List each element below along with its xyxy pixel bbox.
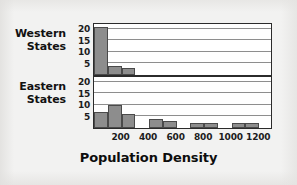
plot-area-eastern-states xyxy=(93,76,272,129)
histogram-figure: Western States 2015105 Eastern States 20… xyxy=(0,0,297,185)
x-axis-tick-label: 1200 xyxy=(246,132,270,142)
y-axis-ticks-eastern: 2015105 xyxy=(68,76,90,129)
histogram-bar xyxy=(122,68,136,75)
y-axis-tick-label: 20 xyxy=(78,25,90,34)
x-axis-label: Population Density xyxy=(0,150,297,165)
y-axis-tick-label: 10 xyxy=(78,101,90,110)
bars-eastern xyxy=(94,77,271,128)
x-axis-tick-label: 600 xyxy=(167,132,185,142)
x-axis-tick-label: 200 xyxy=(111,132,129,142)
histogram-bar xyxy=(108,105,122,128)
y-axis-tick-label: 15 xyxy=(78,90,90,99)
histogram-bar xyxy=(149,119,163,128)
histogram-bar xyxy=(163,121,177,128)
histogram-bar xyxy=(190,123,204,128)
x-axis-ticks: 20040060080010001200 xyxy=(93,132,272,144)
panel-label-eastern-line1: Eastern xyxy=(19,80,66,93)
y-axis-tick-label: 15 xyxy=(78,37,90,46)
panel-label-western-states: Western States xyxy=(2,28,66,53)
panel-label-eastern-states: Eastern States xyxy=(2,81,66,106)
histogram-bar xyxy=(108,66,122,75)
y-axis-tick-label: 20 xyxy=(78,78,90,87)
panel-label-western-line2: States xyxy=(2,41,66,54)
panel-label-western-line1: Western xyxy=(15,27,66,40)
x-axis-tick-label: 1000 xyxy=(219,132,243,142)
histogram-bar xyxy=(245,123,259,128)
panel-label-eastern-line2: States xyxy=(2,94,66,107)
y-axis-ticks-western: 2015105 xyxy=(68,23,90,76)
histogram-bar xyxy=(94,112,108,128)
histogram-bar xyxy=(204,123,218,128)
histogram-bar xyxy=(94,27,108,75)
x-axis-tick-label: 800 xyxy=(194,132,212,142)
bars-western xyxy=(94,24,271,75)
y-axis-tick-label: 5 xyxy=(84,113,90,122)
x-axis-tick-label: 400 xyxy=(139,132,157,142)
y-axis-tick-label: 5 xyxy=(84,60,90,69)
histogram-bar xyxy=(232,123,246,128)
histogram-bar xyxy=(122,114,136,128)
plot-area-western-states xyxy=(93,23,272,76)
y-axis-tick-label: 10 xyxy=(78,48,90,57)
